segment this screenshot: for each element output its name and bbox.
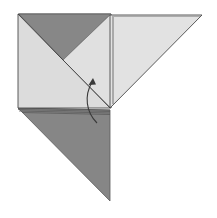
origami-diagram bbox=[0, 0, 217, 218]
right-light-flap bbox=[110, 15, 202, 108]
origami-figure bbox=[0, 0, 217, 218]
